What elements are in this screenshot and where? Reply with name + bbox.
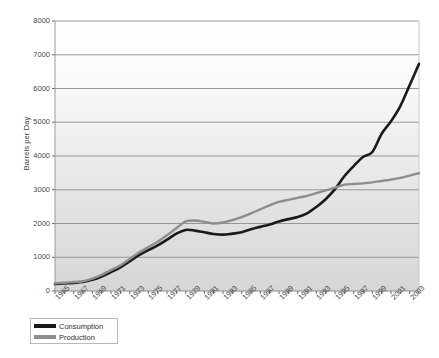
- plot-area: [0, 0, 439, 358]
- legend-label: Consumption: [59, 322, 103, 331]
- legend-color-swatch: [34, 324, 56, 328]
- legend-color-swatch: [34, 335, 56, 339]
- legend-item[interactable]: Production: [34, 332, 114, 342]
- legend-label: Production: [59, 333, 95, 342]
- chart-legend: ConsumptionProduction: [30, 318, 118, 344]
- chart-container: Barrels per Day 010002000300040005000600…: [0, 0, 439, 358]
- legend-item[interactable]: Consumption: [34, 321, 114, 331]
